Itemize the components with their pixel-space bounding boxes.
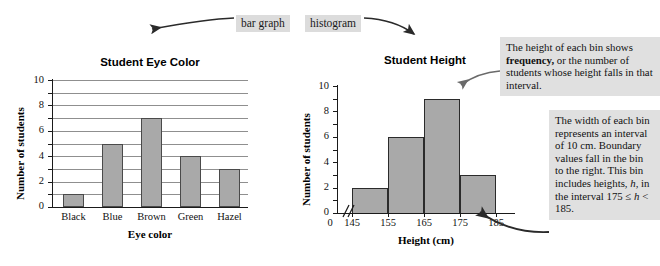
annotation-histogram-label: histogram bbox=[305, 15, 361, 32]
bar-y-tick bbox=[48, 118, 52, 119]
bar-y-tick bbox=[48, 182, 52, 183]
bar-chart-y-axis-line bbox=[52, 79, 53, 208]
bar-y-tick bbox=[48, 144, 52, 145]
bar-y-tick bbox=[48, 80, 52, 81]
histogram-y-tick-label: 2 bbox=[303, 181, 329, 192]
histogram-x-tick-label-145: 145 bbox=[338, 217, 366, 228]
bar-hazel bbox=[219, 169, 240, 207]
bar-y-tick-label: 6 bbox=[18, 124, 44, 135]
bar-y-tick-label: 10 bbox=[18, 74, 44, 85]
bar-brown bbox=[141, 118, 162, 207]
bar-y-tick bbox=[48, 207, 52, 208]
bar-chart-x-axis-line bbox=[52, 207, 248, 208]
callout-bin-height-bold: frequency, bbox=[506, 54, 554, 66]
figure-root: bar graph histogram Student Eye Color Nu… bbox=[0, 0, 660, 266]
arrow-to-bar-graph-icon bbox=[140, 12, 240, 38]
histogram-bin-155-165 bbox=[388, 137, 424, 214]
histogram-y-tick bbox=[333, 150, 337, 151]
histogram-x-tick-label-0: 0 bbox=[320, 217, 340, 228]
bar-y-tick bbox=[48, 131, 52, 132]
histogram-y-tick bbox=[333, 162, 337, 163]
bar-y-tick-label: 4 bbox=[18, 150, 44, 161]
histogram-y-axis-line bbox=[337, 85, 338, 214]
bar-y-tick bbox=[48, 194, 52, 195]
histogram-y-tick bbox=[333, 111, 337, 112]
histogram-y-tick bbox=[333, 86, 337, 87]
bar-gridline bbox=[52, 93, 248, 94]
bar-green bbox=[180, 156, 201, 207]
arrow-callout-height-icon bbox=[452, 68, 504, 94]
bar-chart-x-axis-title: Eye color bbox=[52, 228, 248, 240]
histogram-y-tick bbox=[333, 175, 337, 176]
bar-y-tick-label: 8 bbox=[18, 99, 44, 110]
bar-gridline bbox=[52, 80, 248, 81]
bar-y-tick bbox=[48, 169, 52, 170]
bar-y-tick-label: 0 bbox=[18, 200, 44, 211]
histogram-y-tick bbox=[333, 188, 337, 189]
histogram-y-tick-label: 10 bbox=[303, 80, 329, 91]
bar-y-tick bbox=[48, 105, 52, 106]
histogram-y-tick bbox=[333, 124, 337, 125]
bar-category-label-hazel: Hazel bbox=[204, 211, 255, 222]
bar-y-tick bbox=[48, 93, 52, 94]
callout-bin-height-text-1: The height of each bin shows bbox=[506, 41, 633, 53]
histogram-title: Student Height bbox=[337, 54, 513, 66]
bar-gridline bbox=[52, 105, 248, 106]
histogram-y-tick-label: 0 bbox=[303, 206, 329, 217]
arrow-to-histogram-icon bbox=[362, 14, 424, 44]
histogram-y-tick-label: 8 bbox=[303, 105, 329, 116]
histogram-y-tick bbox=[333, 99, 337, 100]
histogram-x-tick-label-155: 155 bbox=[374, 217, 402, 228]
histogram-y-tick bbox=[333, 213, 337, 214]
bar-chart-title: Student Eye Color bbox=[52, 56, 248, 68]
callout-bin-width: The width of each bin represents an inte… bbox=[549, 110, 660, 220]
arrow-callout-width-icon bbox=[470, 205, 552, 239]
bar-y-tick bbox=[48, 156, 52, 157]
histogram-x-tick-label-165: 165 bbox=[410, 217, 438, 228]
callout-bin-height: The height of each bin shows frequency, … bbox=[500, 37, 660, 96]
bar-blue bbox=[102, 144, 123, 208]
bar-graph-label-text: bar graph bbox=[236, 15, 290, 32]
histogram-y-tick bbox=[333, 137, 337, 138]
histogram-y-tick-label: 6 bbox=[303, 130, 329, 141]
bar-black bbox=[63, 194, 84, 207]
bar-y-tick-label: 2 bbox=[18, 175, 44, 186]
histogram-y-tick-label: 4 bbox=[303, 156, 329, 167]
histogram-label-text: histogram bbox=[305, 15, 361, 32]
histogram-bin-165-175 bbox=[424, 99, 460, 214]
annotation-bar-graph-label: bar graph bbox=[236, 15, 290, 32]
histogram-y-tick bbox=[333, 200, 337, 201]
